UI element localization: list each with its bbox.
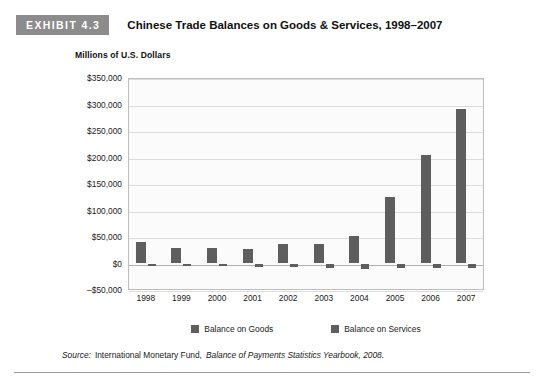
- bar-services: [326, 264, 334, 269]
- chart-container: Millions of U.S. Dollars $350,000$300,00…: [0, 0, 544, 390]
- x-tick-label: 2001: [243, 293, 262, 303]
- bar-services: [183, 264, 191, 267]
- legend-label: Balance on Goods: [204, 324, 273, 334]
- source-publisher: International Monetary Fund,: [95, 350, 202, 360]
- bar-goods: [456, 109, 466, 263]
- y-tick-label: $350,000: [58, 73, 122, 83]
- bar-services: [255, 264, 263, 267]
- bar-goods: [421, 155, 431, 264]
- legend-item: Balance on Goods: [191, 324, 273, 334]
- x-tick-label: 1998: [136, 293, 155, 303]
- y-tick-label: $50,000: [58, 232, 122, 242]
- bar-goods: [314, 244, 324, 263]
- source-note: Source:International Monetary Fund,Balan…: [62, 350, 384, 360]
- x-tick-label: 2003: [314, 293, 333, 303]
- gridline: [129, 291, 483, 292]
- source-prefix: Source:: [62, 350, 91, 360]
- y-tick-label: $300,000: [58, 100, 122, 110]
- y-tick-label: $150,000: [58, 179, 122, 189]
- chart-legend: Balance on GoodsBalance on Services: [128, 322, 484, 336]
- bar-services: [290, 264, 298, 268]
- y-tick-label: $100,000: [58, 206, 122, 216]
- bar-goods: [243, 249, 253, 264]
- y-tick-label: –$50,000: [58, 285, 122, 295]
- bar-goods: [171, 248, 181, 263]
- legend-swatch-icon: [191, 325, 199, 333]
- y-axis-tick-labels: $350,000$300,000$250,000$200,000$150,000…: [58, 78, 122, 290]
- bar-goods: [278, 244, 288, 264]
- y-tick-label: $0: [58, 259, 122, 269]
- x-tick-label: 2006: [421, 293, 440, 303]
- legend-item: Balance on Services: [331, 324, 420, 334]
- x-tick-label: 2005: [386, 293, 405, 303]
- legend-label: Balance on Services: [344, 324, 420, 334]
- x-tick-label: 2007: [457, 293, 476, 303]
- bar-services: [468, 264, 476, 268]
- bar-series-group: [128, 78, 484, 290]
- bar-goods: [136, 242, 146, 264]
- bar-services: [148, 264, 156, 266]
- bar-goods: [349, 236, 359, 263]
- bar-services: [219, 264, 227, 267]
- y-axis-title: Millions of U.S. Dollars: [75, 50, 171, 60]
- bar-goods: [385, 197, 395, 263]
- x-tick-label: 2002: [279, 293, 298, 303]
- y-tick-label: $200,000: [58, 153, 122, 163]
- legend-swatch-icon: [331, 325, 339, 333]
- x-tick-label: 1999: [172, 293, 191, 303]
- bar-goods: [207, 248, 217, 263]
- y-tick-label: $250,000: [58, 126, 122, 136]
- x-tick-label: 2004: [350, 293, 369, 303]
- bottom-divider: [14, 372, 530, 373]
- bar-services: [433, 264, 441, 269]
- x-axis-tick-labels: 1998199920002001200220032004200520062007: [128, 293, 484, 307]
- bar-services: [361, 264, 369, 269]
- x-tick-label: 2000: [208, 293, 227, 303]
- source-publication: Balance of Payments Statistics Yearbook,…: [206, 350, 384, 360]
- bar-services: [397, 264, 405, 269]
